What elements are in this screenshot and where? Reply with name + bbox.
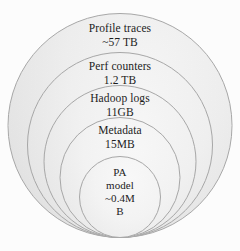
label-hadoop-logs: Hadoop logs 11GB: [0, 92, 240, 119]
label-metadata-value: 15MB: [0, 138, 240, 152]
label-profile-traces-title: Profile traces: [0, 22, 240, 36]
label-pa-model-line4: B: [0, 205, 240, 218]
nested-circles-diagram: Profile traces ~57 TB Perf counters 1.2 …: [0, 0, 240, 251]
label-perf-counters: Perf counters 1.2 TB: [0, 60, 240, 87]
label-perf-counters-value: 1.2 TB: [0, 74, 240, 88]
label-metadata: Metadata 15MB: [0, 124, 240, 151]
label-metadata-title: Metadata: [0, 124, 240, 138]
label-perf-counters-title: Perf counters: [0, 60, 240, 74]
label-profile-traces-value: ~57 TB: [0, 36, 240, 50]
label-pa-model-line2: model: [0, 179, 240, 192]
label-pa-model-line3: ~0.4M: [0, 192, 240, 205]
label-hadoop-logs-value: 11GB: [0, 106, 240, 120]
label-pa-model: PA model ~0.4M B: [0, 166, 240, 218]
label-hadoop-logs-title: Hadoop logs: [0, 92, 240, 106]
label-pa-model-line1: PA: [0, 166, 240, 179]
label-profile-traces: Profile traces ~57 TB: [0, 22, 240, 49]
